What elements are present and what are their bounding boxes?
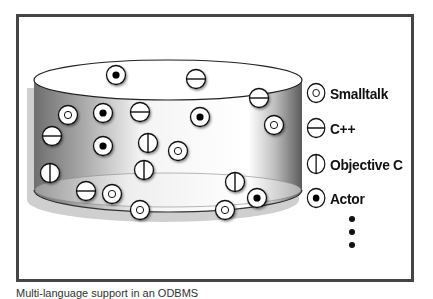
actor-object-icon	[191, 108, 210, 127]
smalltalk-object-icon	[103, 185, 122, 204]
smalltalk-object-icon	[169, 142, 188, 161]
actor-object-icon	[248, 189, 267, 208]
actor-object-icon	[107, 66, 126, 85]
cpp-object-icon	[250, 89, 269, 108]
legend-label: Objective C	[330, 156, 403, 173]
objective-c-object-icon	[41, 164, 60, 183]
actor-object-icon	[94, 137, 113, 156]
circle-with-dot-icon	[306, 187, 326, 209]
figure-caption: Multi-language support in an ODBMS	[16, 287, 198, 299]
smalltalk-object-icon	[59, 106, 78, 125]
cpp-object-icon	[131, 103, 150, 122]
cpp-object-icon	[77, 182, 96, 201]
vertical-ellipsis-icon	[347, 215, 357, 251]
legend-label: Actor	[330, 190, 365, 207]
legend-label: C++	[330, 120, 355, 137]
circle-horizontal-bar-icon	[306, 117, 326, 139]
legend-label: Smalltalk	[330, 85, 388, 102]
smalltalk-object-icon	[265, 116, 284, 135]
objective-c-object-icon	[139, 134, 158, 153]
circle-vertical-bar-icon	[306, 153, 326, 175]
legend-item-objective-c: Objective C	[306, 153, 403, 175]
legend-item-smalltalk: Smalltalk	[306, 82, 388, 104]
smalltalk-object-icon	[131, 201, 150, 220]
cpp-object-icon	[187, 70, 206, 89]
smalltalk-object-icon	[216, 201, 235, 220]
objective-c-object-icon	[226, 173, 245, 192]
actor-object-icon	[94, 104, 113, 123]
legend-item-cpp: C++	[306, 117, 355, 139]
legend-item-actor: Actor	[306, 187, 365, 209]
cpp-object-icon	[43, 127, 62, 146]
circle-with-ring-icon	[306, 82, 326, 104]
objective-c-object-icon	[135, 161, 154, 180]
